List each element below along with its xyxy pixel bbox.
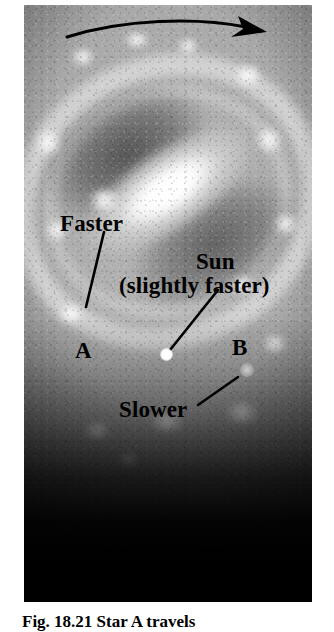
galaxy-photograph: Faster Sun (slightly faster) A B Slower [24, 5, 312, 602]
figure-container: Faster Sun (slightly faster) A B Slower … [0, 0, 334, 632]
sun-marker [160, 348, 173, 361]
label-sun: Sun (slightly faster) [161, 250, 270, 298]
leader-line-sun [170, 290, 218, 350]
leader-line-slower [198, 377, 238, 405]
rotation-direction-arrow [67, 16, 267, 37]
annotation-overlay: Faster Sun (slightly faster) A B Slower [24, 5, 312, 602]
annotation-vector-layer [24, 5, 312, 602]
star-b-marker [240, 363, 254, 377]
label-star-b: B [232, 336, 247, 360]
label-sun-line1: Sun [196, 249, 235, 274]
label-faster: Faster [60, 212, 123, 236]
label-slower: Slower [119, 398, 187, 422]
label-sun-line2: (slightly faster) [119, 274, 270, 298]
leader-line-faster [86, 232, 104, 307]
figure-caption: Fig. 18.21 Star A travels [22, 612, 322, 632]
label-star-a: A [75, 339, 92, 363]
